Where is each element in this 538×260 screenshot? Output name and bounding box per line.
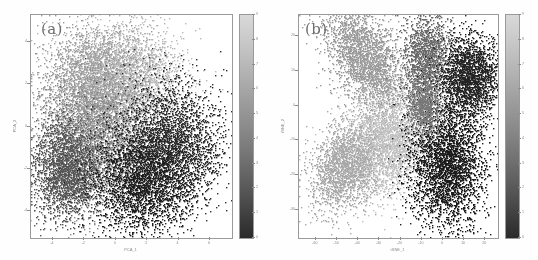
colorbar-a — [239, 14, 254, 239]
x-tick — [442, 237, 443, 240]
colorbar-tick — [518, 88, 521, 89]
x-tick — [52, 237, 53, 240]
x-tick — [146, 237, 147, 240]
figure-container: (a) -4-20246-4-2024PCA_1PCA_2 0123456789… — [0, 0, 538, 260]
y-tick-label: -4 — [17, 208, 27, 212]
x-tick-label: 0 — [114, 241, 116, 245]
colorbar-tick-label: 7 — [522, 62, 524, 66]
colorbar-tick-label: 6 — [256, 86, 258, 90]
x-tick — [336, 237, 337, 240]
x-tick — [378, 237, 379, 240]
x-tick-label: 20 — [482, 241, 486, 245]
panel-a: (a) -4-20246-4-2024PCA_1PCA_2 0123456789 — [0, 0, 269, 260]
x-tick — [178, 237, 179, 240]
x-tick — [421, 237, 422, 240]
x-tick — [115, 237, 116, 240]
x-axis-label: PCA_1 — [124, 247, 137, 252]
colorbar-tick-label: 8 — [256, 37, 258, 41]
colorbar-tick — [252, 138, 255, 139]
panel-label-a: (a) — [41, 20, 63, 38]
y-tick — [27, 210, 30, 211]
y-tick — [27, 83, 30, 84]
x-tick-label: -40 — [355, 241, 360, 245]
colorbar-tick — [518, 237, 521, 238]
x-tick — [315, 237, 316, 240]
y-tick-label: -30 — [285, 207, 295, 211]
x-tick-label: 0 — [441, 241, 443, 245]
x-tick — [209, 237, 210, 240]
x-tick-label: -10 — [418, 241, 423, 245]
colorbar-tick — [252, 14, 255, 15]
colorbar-tick — [252, 187, 255, 188]
colorbar-tick — [252, 88, 255, 89]
x-tick-label: -20 — [397, 241, 402, 245]
colorbar-tick — [518, 14, 521, 15]
x-tick — [357, 237, 358, 240]
x-axis-label: tSNE_1 — [391, 247, 405, 252]
y-tick-label: 0 — [17, 124, 27, 128]
colorbar-tick — [518, 39, 521, 40]
x-tick-label: -50 — [333, 241, 338, 245]
colorbar-tick — [252, 237, 255, 238]
colorbar-tick-label: 4 — [522, 136, 524, 140]
colorbar-tick-label: 3 — [256, 161, 258, 165]
colorbar-b — [505, 14, 520, 239]
x-tick-label: -30 — [376, 241, 381, 245]
y-tick-label: 20 — [285, 33, 295, 37]
colorbar-tick-label: 9 — [256, 12, 258, 16]
y-tick — [295, 209, 298, 210]
colorbar-tick-label: 5 — [256, 111, 258, 115]
colorbar-tick-label: 8 — [522, 37, 524, 41]
colorbar-tick — [252, 113, 255, 114]
y-axis-label: tSNE_2 — [280, 119, 285, 133]
colorbar-tick-label: 1 — [522, 210, 524, 214]
colorbar-tick-label: 9 — [522, 12, 524, 16]
y-axis-label: PCA_2 — [12, 119, 17, 132]
colorbar-tick-label: 5 — [522, 111, 524, 115]
panel-label-b: (b) — [305, 20, 328, 38]
x-tick-label: -60 — [312, 241, 317, 245]
y-tick — [295, 105, 298, 106]
colorbar-tick-label: 2 — [522, 185, 524, 189]
scatter-points-b — [299, 15, 498, 238]
colorbar-tick-label: 1 — [256, 210, 258, 214]
colorbar-tick-label: 3 — [522, 161, 524, 165]
x-tick — [83, 237, 84, 240]
colorbar-tick-label: 6 — [522, 86, 524, 90]
y-tick — [295, 70, 298, 71]
y-tick-label: -10 — [285, 137, 295, 141]
colorbar-tick — [252, 163, 255, 164]
x-tick — [400, 237, 401, 240]
colorbar-tick-label: 7 — [256, 62, 258, 66]
panel-b: (b) -60-50-40-30-20-100102020100-10-20-3… — [269, 0, 538, 260]
y-tick — [295, 139, 298, 140]
colorbar-tick — [252, 39, 255, 40]
x-tick-label: -4 — [50, 241, 53, 245]
y-tick-label: -20 — [285, 172, 295, 176]
y-tick-label: 10 — [285, 68, 295, 72]
scatter-points-a — [31, 15, 232, 238]
y-tick — [295, 35, 298, 36]
scatter-axes-b — [298, 14, 499, 239]
x-tick-label: 4 — [177, 241, 179, 245]
x-tick — [463, 237, 464, 240]
y-tick-label: -2 — [17, 166, 27, 170]
colorbar-tick — [518, 187, 521, 188]
y-tick — [295, 174, 298, 175]
colorbar-tick — [518, 163, 521, 164]
y-tick-label: 4 — [17, 39, 27, 43]
colorbar-tick — [252, 64, 255, 65]
x-tick-label: -2 — [82, 241, 85, 245]
colorbar-tick — [518, 113, 521, 114]
scatter-axes-a — [30, 14, 233, 239]
y-tick-label: 0 — [285, 103, 295, 107]
colorbar-tick-label: 0 — [256, 235, 258, 239]
colorbar-tick-label: 0 — [522, 235, 524, 239]
colorbar-tick — [518, 212, 521, 213]
x-tick — [484, 237, 485, 240]
x-tick-label: 6 — [208, 241, 210, 245]
colorbar-tick-label: 2 — [256, 185, 258, 189]
y-tick-label: 2 — [17, 81, 27, 85]
y-tick — [27, 41, 30, 42]
y-tick — [27, 126, 30, 127]
